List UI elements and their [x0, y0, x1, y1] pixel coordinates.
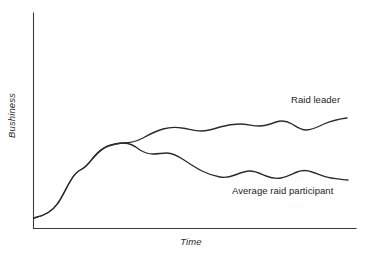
series-line-average-raid-participant [34, 143, 348, 218]
series-line-raid-leader [34, 118, 347, 218]
x-axis-label: Time [0, 236, 368, 247]
line-chart-figure: Bushiness Time Raid leader Average raid … [0, 0, 368, 264]
chart-plot-area [0, 0, 368, 264]
y-axis-label: Bushiness [6, 86, 17, 146]
series-label-average-raid-participant: Average raid participant [232, 185, 333, 196]
series-label-raid-leader: Raid leader [291, 94, 340, 105]
